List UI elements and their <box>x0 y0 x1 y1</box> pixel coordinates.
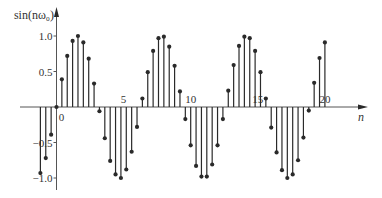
x-tick-label: 15 <box>252 93 264 105</box>
stem-marker <box>60 77 64 81</box>
x-axis-label: n <box>358 110 364 124</box>
stem-marker <box>146 70 150 74</box>
stem-marker <box>87 57 91 61</box>
stem-marker <box>194 164 198 168</box>
stem-marker <box>119 176 123 180</box>
stem-marker <box>210 162 214 166</box>
x-tick-label: 20 <box>319 93 331 105</box>
x-axis-arrow-icon <box>358 105 368 110</box>
stem-marker <box>296 158 300 162</box>
stem-marker <box>151 49 155 53</box>
stem-marker <box>264 96 268 100</box>
stem-marker <box>301 135 305 139</box>
y-tick-label: −1.0 <box>33 172 53 184</box>
stem-marker <box>183 117 187 121</box>
stem-marker <box>253 49 257 53</box>
stem-marker <box>307 108 311 112</box>
stem-marker <box>215 143 219 147</box>
stem-marker <box>65 54 69 58</box>
stem-marker <box>285 176 289 180</box>
stem-marker <box>167 45 171 49</box>
stem-marker <box>44 156 48 160</box>
x-tick-label: 0 <box>59 111 65 123</box>
stem-marker <box>178 89 182 93</box>
x-tick-label: 5 <box>121 93 127 105</box>
stem-marker <box>317 56 321 60</box>
stem-marker <box>135 125 139 129</box>
stem-marker <box>124 167 128 171</box>
stem-marker <box>140 96 144 100</box>
stem-marker <box>248 36 252 40</box>
stem-marker <box>76 34 80 38</box>
stem-marker <box>258 70 262 74</box>
stem-marker <box>312 81 316 85</box>
stem-marker <box>291 172 295 176</box>
stem-marker <box>113 172 117 176</box>
stem-plot: 1.00.5−0.5−1.005101520 sin(nω₀) n <box>0 0 382 198</box>
y-tick-label: 0.5 <box>39 66 53 78</box>
x-tick-label: 10 <box>185 93 197 105</box>
stem-marker <box>81 40 85 44</box>
stem-marker <box>280 168 284 172</box>
y-tick-label: −0.5 <box>33 137 53 149</box>
stem-marker <box>274 150 278 154</box>
stem-marker <box>92 81 96 85</box>
y-tick-label: 1.0 <box>39 30 53 42</box>
stem-marker <box>97 109 101 113</box>
stem-marker <box>242 35 246 39</box>
stem-marker <box>172 64 176 68</box>
stem-marker <box>269 125 273 129</box>
stem-marker <box>162 35 166 39</box>
stem-marker <box>54 105 58 109</box>
stem-marker <box>221 117 225 121</box>
stem-marker <box>237 44 241 48</box>
stem-marker <box>199 174 203 178</box>
y-axis-arrow-icon <box>54 7 59 17</box>
stem-marker <box>130 150 134 154</box>
stem-marker <box>71 39 75 43</box>
stem-marker <box>232 63 236 67</box>
stem-marker <box>108 159 112 163</box>
y-axis-label: sin(nω₀) <box>14 8 54 22</box>
stem-marker <box>226 89 230 93</box>
stem-marker <box>103 136 107 140</box>
stem-marker <box>189 143 193 147</box>
stem-marker <box>205 174 209 178</box>
stem-marker <box>323 40 327 44</box>
stem-marker <box>156 36 160 40</box>
